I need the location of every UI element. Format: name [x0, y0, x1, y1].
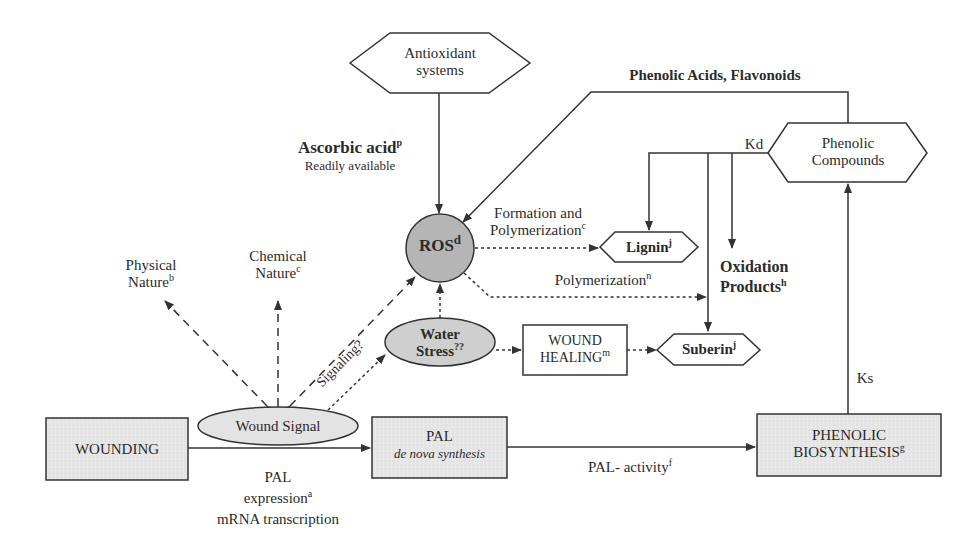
lignin-label: Ligninj	[610, 239, 688, 256]
ros-label: ROSd	[410, 237, 470, 254]
pal-activity-label: PAL- activityf	[570, 459, 690, 476]
wound-healing-label: WOUND HEALINGm	[523, 332, 627, 366]
phenolic-acids-flavonoids-label: Phenolic Acids, Flavonoids	[600, 67, 830, 84]
oxidation-products-label: Oxidation Productsh	[720, 257, 820, 297]
ascorbic-acid-label: Ascorbic acidp Readily available	[280, 138, 420, 174]
suberin-label: Suberinj	[668, 341, 750, 358]
formation-polymerization-label: Formation and Polymerizationc	[478, 205, 598, 239]
physical-nature-label: Physical Natureb	[110, 257, 192, 291]
physical-nature-arrow	[165, 301, 267, 406]
phenolic-compounds-label: Phenolic Compounds	[792, 135, 904, 169]
kd-label: Kd	[742, 136, 766, 153]
ks-label: Ks	[853, 370, 877, 387]
wound-signal-label: Wound Signal	[198, 418, 358, 435]
chemical-nature-label: Chemical Naturec	[236, 248, 320, 282]
pal-expression-label: PAL expressiona mRNA transcription	[198, 467, 358, 530]
water-stress-label: Water Stress??	[400, 326, 480, 360]
wounding-label: WOUNDING	[46, 441, 188, 458]
pal-label: PAL de nova synthesis	[372, 428, 507, 462]
polymerization-label: Polymerizationn	[538, 272, 668, 289]
antioxidant-label: Antioxidant systems	[390, 45, 490, 79]
phenolic-biosynthesis-label: PHENOLIC BIOSYNTHESISg	[757, 427, 941, 461]
